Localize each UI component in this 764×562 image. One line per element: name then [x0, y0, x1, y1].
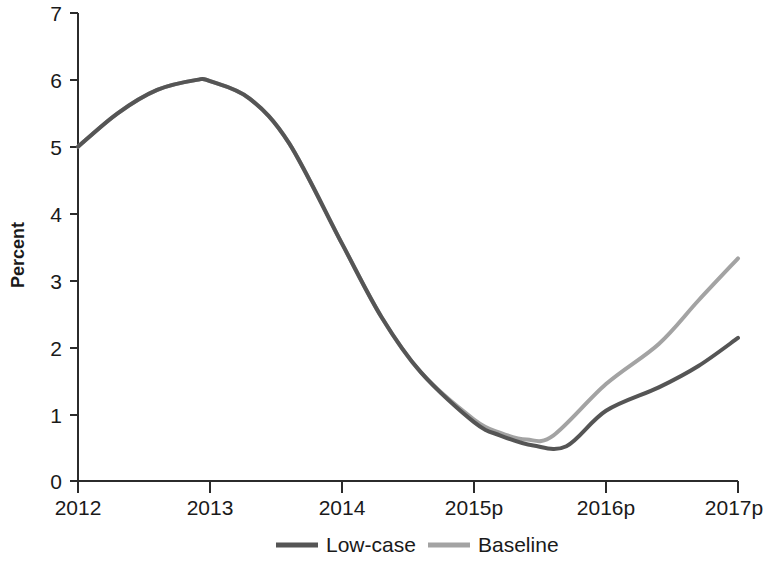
- series-line-baseline: [78, 79, 738, 441]
- x-tick-label: 2014: [319, 496, 366, 519]
- line-chart-figure: Percent 7 6 5 4 3 2 1 0: [0, 0, 764, 562]
- legend-label-low-case: Low-case: [326, 533, 416, 556]
- x-tick-label: 2012: [55, 496, 102, 519]
- chart-legend: Low-case Baseline: [276, 533, 559, 556]
- y-tick-label: 4: [50, 203, 62, 226]
- y-tick-label: 1: [50, 404, 62, 427]
- y-tick-label: 7: [50, 2, 62, 25]
- legend-label-baseline: Baseline: [478, 533, 559, 556]
- y-axis-tick-labels: 7 6 5 4 3 2 1 0: [50, 2, 62, 493]
- y-tick-label: 6: [50, 69, 62, 92]
- y-tick-label: 3: [50, 270, 62, 293]
- x-tick-label: 2013: [187, 496, 234, 519]
- y-tick-label: 2: [50, 337, 62, 360]
- x-axis-ticks: [78, 481, 738, 493]
- x-tick-label: 2016p: [577, 496, 635, 519]
- data-series-layer: [78, 79, 738, 449]
- x-axis-tick-labels: 2012 2013 2014 2015p 2016p 2017p: [55, 496, 764, 519]
- x-tick-label: 2015p: [445, 496, 503, 519]
- y-axis-ticks: [70, 13, 78, 481]
- series-line-low-case: [78, 79, 738, 449]
- y-tick-label: 5: [50, 136, 62, 159]
- chart-plot-area: Percent 7 6 5 4 3 2 1 0: [0, 0, 764, 562]
- x-tick-label: 2017p: [705, 496, 763, 519]
- y-tick-label: 0: [50, 470, 62, 493]
- y-axis-title: Percent: [8, 222, 28, 288]
